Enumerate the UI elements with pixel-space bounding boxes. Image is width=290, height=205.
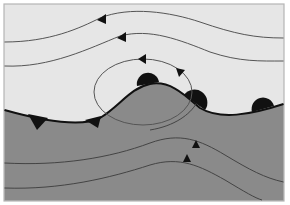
- weather-front-diagram: [0, 0, 290, 205]
